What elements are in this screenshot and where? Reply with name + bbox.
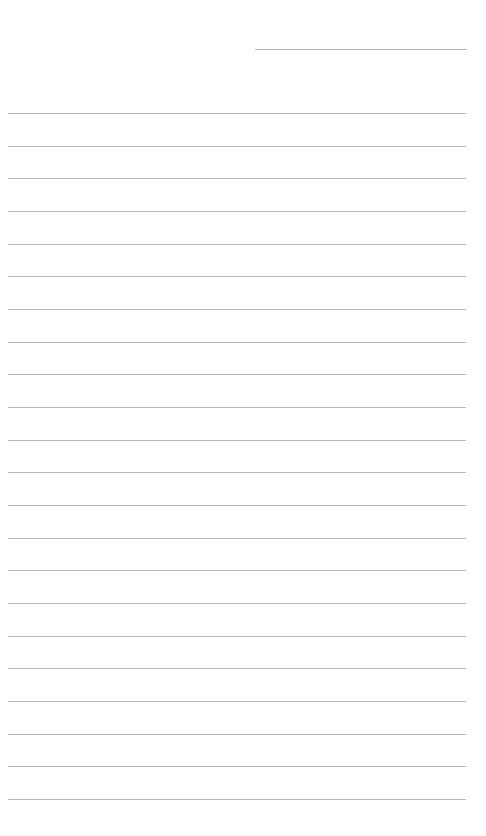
ruled-line — [8, 538, 466, 539]
ruled-line — [8, 113, 466, 114]
ruled-line — [8, 276, 466, 277]
ruled-line — [8, 342, 466, 343]
ruled-line — [8, 701, 466, 702]
ruled-line — [8, 309, 466, 310]
ruled-line — [8, 178, 466, 179]
ruled-line — [8, 244, 466, 245]
ruled-line — [8, 440, 466, 441]
ruled-line — [8, 668, 466, 669]
ruled-line — [8, 766, 466, 767]
ruled-line — [8, 146, 466, 147]
ruled-line — [8, 799, 466, 800]
ruled-line — [8, 734, 466, 735]
ruled-line — [8, 570, 466, 571]
ruled-line — [8, 603, 466, 604]
ruled-line — [8, 211, 466, 212]
ruled-line — [8, 407, 466, 408]
ruled-line — [8, 374, 466, 375]
ruled-line — [8, 472, 466, 473]
ruled-line — [8, 636, 466, 637]
ruled-line — [8, 505, 466, 506]
header-name-line — [255, 49, 467, 50]
